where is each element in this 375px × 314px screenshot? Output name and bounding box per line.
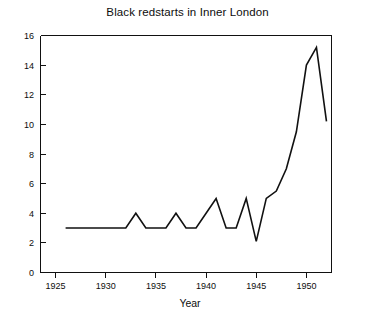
x-axis-ticks	[56, 273, 307, 278]
y-tick-label: 4	[29, 209, 34, 219]
y-tick-label: 6	[29, 179, 34, 189]
x-axis-tick-labels: 1925 1930 1935 1940 1945 1950	[45, 281, 316, 291]
x-tick-label: 1945	[246, 281, 266, 291]
y-tick-label: 8	[29, 150, 34, 160]
x-axis-title: Year	[179, 297, 201, 309]
y-tick-label: 2	[29, 238, 34, 248]
y-axis-tick-labels: 16 14 12 10 8 6 4 2 0	[24, 31, 34, 278]
x-tick-label: 1925	[45, 281, 65, 291]
y-tick-label: 0	[29, 268, 34, 278]
x-tick-label: 1940	[196, 281, 216, 291]
y-tick-label: 12	[24, 90, 34, 100]
y-tick-label: 14	[24, 61, 34, 71]
y-axis-ticks	[41, 36, 46, 273]
chart-figure: Black redstarts in Inner London 16 14 12…	[0, 0, 375, 314]
x-tick-label: 1935	[146, 281, 166, 291]
y-tick-label: 10	[24, 120, 34, 130]
line-chart-plot: 16 14 12 10 8 6 4 2 0 1925 1930 1935 194…	[0, 0, 375, 314]
y-tick-label: 16	[24, 31, 34, 41]
x-tick-label: 1950	[296, 281, 316, 291]
plot-frame	[41, 36, 332, 273]
data-series-line	[66, 47, 327, 241]
x-tick-label: 1930	[96, 281, 116, 291]
